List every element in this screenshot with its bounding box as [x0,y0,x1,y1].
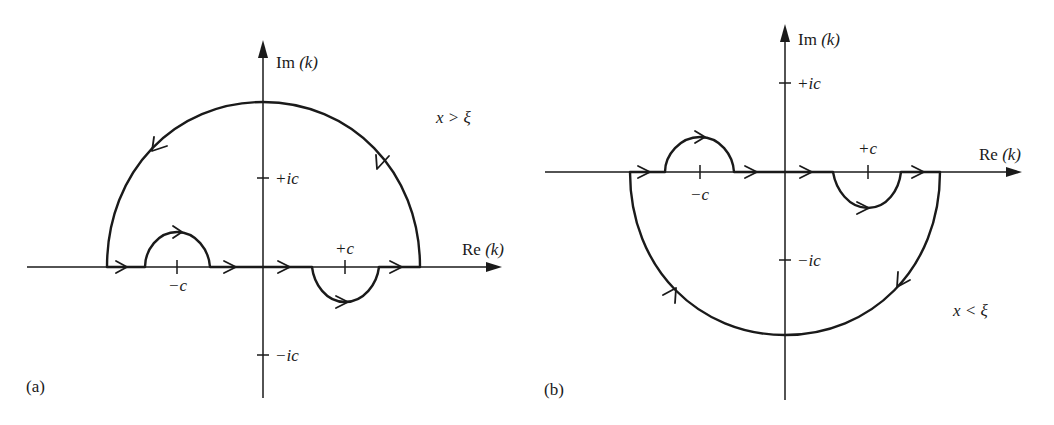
condition-label: x < ξ [952,301,989,320]
tick-label-plus-ic: +ic [797,74,821,93]
panel-label: (a) [26,377,45,396]
im-axis-label: Im (k) [276,53,318,72]
pole-label-plus-c: +c [335,239,354,258]
tick-label-plus-ic: +ic [275,169,299,188]
re-axis-arrow-icon [1006,167,1022,177]
panel-a: Im (k) Re (k) x > ξ +ic −ic −c +c (a) [26,40,504,398]
pole-label-plus-c: +c [858,139,877,158]
condition-label: x > ξ [435,108,472,127]
contour-diagram: Im (k) Re (k) x > ξ +ic −ic −c +c (a) [0,0,1054,425]
tick-label-minus-ic: −ic [797,251,821,270]
panel-b: Im (k) Re (k) x < ξ +ic −ic −c +c (b) [544,24,1022,400]
panel-label: (b) [544,380,564,399]
re-axis-label: Re (k) [462,240,504,259]
tick-label-minus-ic: −ic [275,346,299,365]
arrow-chevron-icon [152,137,167,151]
re-axis-label: Re (k) [979,145,1021,164]
re-axis-arrow-icon [486,262,502,272]
pole-label-minus-c: −c [168,276,187,295]
im-axis-label: Im (k) [798,30,840,49]
im-axis-arrow-icon [258,40,268,58]
pole-label-minus-c: −c [690,185,709,204]
im-axis-arrow-icon [780,24,790,42]
